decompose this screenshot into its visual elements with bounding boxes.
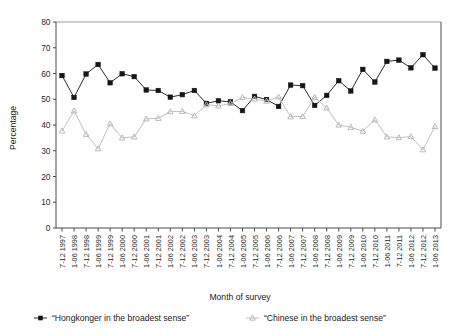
y-axis — [53, 22, 56, 228]
x-tick-label: 7-12 2000 — [130, 235, 139, 268]
y-axis-title: Percentage — [8, 106, 18, 150]
x-tick-label: 1-06 2002 — [166, 235, 175, 268]
data-point — [60, 73, 65, 78]
y-tick-label: 30 — [41, 146, 51, 156]
data-point — [84, 72, 89, 77]
x-tick-label: 1-06 2009 — [335, 235, 344, 268]
x-tick-label: 7-12 2002 — [178, 235, 187, 268]
data-point — [192, 88, 197, 93]
x-tick-label: 1-06 2010 — [359, 235, 368, 268]
x-tick-label: 7-12 2010 — [371, 235, 380, 268]
x-tick-label: 7-12 2006 — [275, 235, 284, 268]
y-tick-label: 80 — [41, 17, 51, 27]
chart-legend: “Hongkonger in the broadest sense”“Chine… — [34, 313, 386, 323]
percentage-line-chart: 01020304050607080 7-12 19971-06 19987-12… — [0, 0, 452, 335]
x-tick-label: 1-06 2004 — [215, 235, 224, 268]
data-point — [144, 88, 149, 93]
data-point — [300, 83, 305, 88]
x-tick-label: 7-12 2001 — [154, 235, 163, 268]
x-axis — [56, 22, 441, 232]
data-point — [180, 92, 185, 97]
x-tick-label: 1-06 1999 — [94, 235, 103, 268]
x-tick-label: 7-12 2004 — [227, 235, 236, 268]
series-line — [62, 97, 435, 150]
y-tick-label: 20 — [41, 172, 51, 182]
data-point — [120, 71, 125, 76]
series-group — [59, 52, 438, 151]
x-tick-label: 7-12 2012 — [419, 235, 428, 268]
data-point — [132, 74, 137, 79]
y-tick-label: 40 — [41, 120, 51, 130]
data-point — [72, 95, 77, 100]
x-tick-label: 1-06 2007 — [287, 235, 296, 268]
x-tick-label: 1-06 2003 — [190, 235, 199, 268]
data-point — [433, 66, 438, 71]
data-point — [432, 124, 438, 129]
y-tick-label: 10 — [41, 197, 51, 207]
series-line — [62, 55, 435, 111]
x-tick-label: 7-12 1998 — [82, 235, 91, 268]
x-tick-label: 1-06 2005 — [239, 235, 248, 268]
x-tick-label: 1-06 2000 — [118, 235, 127, 268]
x-tick-label: 1-06 1998 — [70, 235, 79, 268]
data-point — [276, 104, 281, 109]
x-tick-label: 7-12 2011 — [395, 235, 404, 267]
y-tick-labels: 01020304050607080 — [41, 17, 51, 233]
legend-label: “Chinese in the broadest sense” — [264, 313, 386, 323]
x-tick-label: 7-12 2005 — [251, 235, 260, 268]
data-point — [96, 62, 101, 67]
data-point — [168, 95, 173, 100]
x-tick-label: 7-12 2009 — [347, 235, 356, 268]
x-tick-labels: 7-12 19971-06 19987-12 19981-06 19997-12… — [58, 235, 440, 268]
x-tick-label: 1-06 2011 — [383, 235, 392, 267]
y-tick-label: 70 — [41, 43, 51, 53]
data-point — [348, 89, 353, 94]
x-tick-label: 7-12 2008 — [323, 235, 332, 268]
y-tick-label: 60 — [41, 69, 51, 79]
data-point — [421, 52, 426, 57]
legend-item-chinese: “Chinese in the broadest sense” — [246, 313, 386, 323]
x-tick-label: 7-12 1997 — [58, 235, 67, 268]
x-tick-label: 1-06 2013 — [431, 235, 440, 268]
data-point — [324, 93, 329, 98]
x-tick-label: 7-12 2003 — [202, 235, 211, 268]
x-tick-label: 7-12 1999 — [106, 235, 115, 268]
y-tick-label: 0 — [46, 223, 51, 233]
data-point — [288, 83, 293, 88]
x-tick-label: 1-06 2006 — [263, 235, 272, 268]
legend-item-hongkonger: “Hongkonger in the broadest sense” — [34, 313, 189, 323]
data-point — [409, 66, 414, 71]
data-point — [360, 67, 365, 72]
data-point — [373, 80, 378, 85]
series-hongkonger — [60, 52, 438, 112]
data-point — [156, 88, 161, 93]
x-tick-label: 1-06 2001 — [142, 235, 151, 268]
data-point — [397, 58, 402, 63]
data-point — [108, 80, 113, 85]
data-point — [240, 108, 245, 113]
x-tick-label: 7-12 2007 — [299, 235, 308, 268]
data-point — [385, 59, 390, 64]
legend-label: “Hongkonger in the broadest sense” — [52, 313, 189, 323]
chart-container: 01020304050607080 7-12 19971-06 19987-12… — [0, 0, 452, 335]
x-axis-title: Month of survey — [209, 292, 271, 302]
legend-marker-square — [38, 316, 43, 321]
data-point — [312, 103, 317, 108]
x-tick-label: 1-06 2012 — [407, 235, 416, 268]
y-tick-label: 50 — [41, 94, 51, 104]
series-chinese — [59, 94, 438, 152]
data-point — [336, 78, 341, 83]
x-tick-label: 1-06 2008 — [311, 235, 320, 268]
